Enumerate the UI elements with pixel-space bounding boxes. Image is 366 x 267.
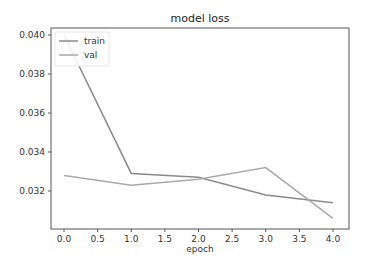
x-tick-label: 4.0: [326, 234, 341, 244]
x-tick-label: 1.0: [124, 234, 139, 244]
y-axis: 0.0320.0340.0360.0380.040: [19, 30, 51, 196]
x-axis: 0.00.51.01.52.02.53.03.54.0: [57, 229, 341, 244]
y-tick-label: 0.038: [19, 69, 45, 79]
y-tick-label: 0.032: [19, 186, 45, 196]
x-tick-label: 0.5: [90, 234, 104, 244]
x-tick-label: 0.0: [57, 234, 72, 244]
x-axis-label: epoch: [186, 244, 213, 254]
y-tick-label: 0.036: [19, 108, 45, 118]
legend-train-label: train: [84, 36, 105, 46]
x-tick-label: 3.0: [259, 234, 274, 244]
y-tick-label: 0.034: [19, 147, 45, 157]
chart-title: model loss: [171, 12, 230, 25]
x-tick-label: 3.5: [292, 234, 306, 244]
legend: train val: [55, 32, 109, 66]
x-tick-label: 2.5: [225, 234, 239, 244]
loss-chart: model loss 0.0320.0340.0360.0380.040 0.0…: [0, 0, 366, 267]
x-tick-label: 1.5: [158, 234, 172, 244]
x-tick-label: 2.0: [191, 234, 206, 244]
y-tick-label: 0.040: [19, 30, 45, 40]
legend-val-label: val: [84, 50, 97, 60]
series-line-val: [64, 168, 333, 219]
